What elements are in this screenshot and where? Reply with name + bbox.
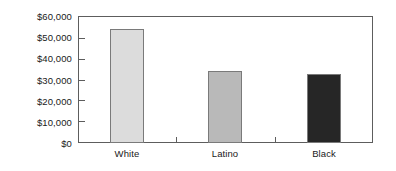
bar-white [110, 29, 144, 143]
y-tick-label: $60,000 [37, 11, 72, 22]
x-axis: White Latino Black [78, 148, 373, 168]
category-separator-tick [176, 137, 177, 143]
bar-black [307, 74, 341, 143]
y-tick-label: $10,000 [37, 116, 72, 127]
x-tick-label-white: White [115, 148, 140, 159]
bar-latino [208, 71, 242, 143]
category-separator-tick [275, 137, 276, 143]
y-tick-label: $0 [61, 138, 72, 149]
y-tick-label: $50,000 [37, 32, 72, 43]
bar-chart: $60,000 $50,000 $40,000 $30,000 $20,000 … [0, 0, 396, 171]
x-tick-label-latino: Latino [212, 148, 238, 159]
x-tick-label-black: Black [312, 148, 336, 159]
y-tick-label: $40,000 [37, 53, 72, 64]
y-tick-label: $20,000 [37, 95, 72, 106]
y-tick-label: $30,000 [37, 74, 72, 85]
y-axis: $60,000 $50,000 $40,000 $30,000 $20,000 … [0, 16, 72, 143]
bars-layer [78, 16, 373, 143]
